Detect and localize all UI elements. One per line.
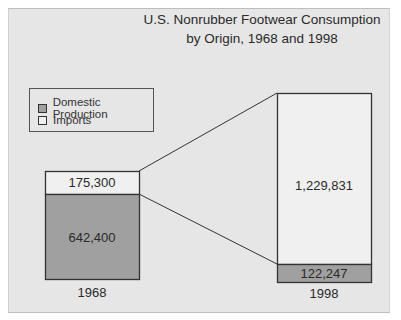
label-1998-imports: 1,229,831 bbox=[277, 178, 371, 193]
connector-line-top bbox=[139, 93, 277, 171]
label-1968-domestic: 642,400 bbox=[45, 230, 139, 245]
label-1968-imports: 175,300 bbox=[45, 175, 139, 190]
label-1998-domestic: 122,247 bbox=[277, 266, 371, 281]
connector-line-bottom bbox=[139, 194, 277, 264]
label-category-1968: 1968 bbox=[45, 285, 139, 300]
label-category-1998: 1998 bbox=[277, 286, 371, 301]
